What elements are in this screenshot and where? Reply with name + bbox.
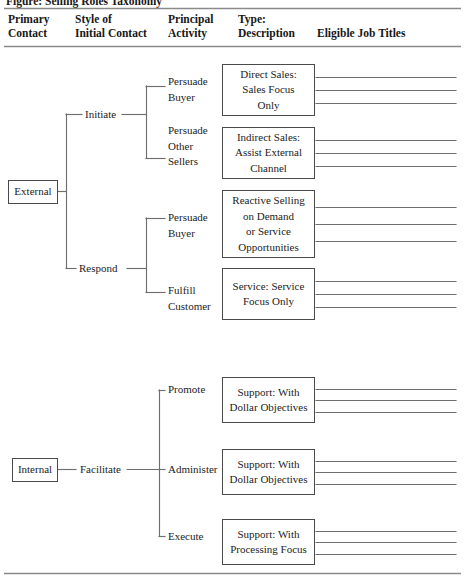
label-administer: Administer — [168, 462, 218, 478]
label-promote: Promote — [168, 382, 205, 398]
column-header-primary-contact: Primary Contact — [8, 12, 50, 40]
label-persuade-buyer-2: Persuade Buyer — [168, 210, 208, 241]
desc-box-indirect-sales: Indirect Sales: Assist External Channel — [222, 127, 315, 179]
column-header-style-of-initial-contact: Style of Initial Contact — [75, 12, 147, 40]
desc-box-service-focus: Service: Service Focus Only — [222, 268, 315, 320]
selling-roles-taxonomy-figure: Figure: Selling Roles Taxonomy — [0, 0, 465, 580]
label-initiate: Initiate — [85, 107, 116, 123]
desc-box-support-dollar-2: Support: With Dollar Objectives — [222, 449, 315, 495]
column-header-principal-activity: Principal Activity — [168, 12, 213, 40]
column-header-eligible-job-titles: Eligible Job Titles — [317, 26, 405, 40]
label-execute: Execute — [168, 529, 203, 545]
label-persuade-buyer-1: Persuade Buyer — [168, 74, 208, 105]
label-respond: Respond — [79, 261, 118, 277]
label-facilitate: Facilitate — [80, 462, 121, 478]
column-header-type-description: Type: Description — [238, 12, 295, 40]
eligible-job-title-blank-lines — [316, 78, 456, 555]
label-fulfill-customer: Fulfill Customer — [168, 283, 211, 314]
desc-box-support-processing: Support: With Processing Focus — [222, 519, 315, 565]
label-persuade-other-sellers: Persuade Other Sellers — [168, 123, 208, 170]
node-internal: Internal — [12, 458, 58, 482]
desc-box-reactive-selling: Reactive Selling on Demand or Service Op… — [222, 190, 315, 258]
desc-box-direct-sales: Direct Sales: Sales Focus Only — [222, 64, 315, 116]
node-external: External — [8, 180, 58, 204]
desc-box-support-dollar-1: Support: With Dollar Objectives — [222, 377, 315, 423]
